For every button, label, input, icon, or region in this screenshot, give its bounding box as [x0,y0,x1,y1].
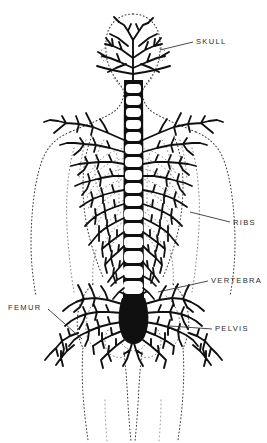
skull-bone-uptake [97,17,170,80]
leader-skull [160,42,193,50]
leader-ribs [190,212,230,222]
skeleton-illustration: .dot{fill:none;stroke:#3c3c3c;stroke-wid… [0,0,267,443]
leader-femur [48,309,82,339]
label-vertebra: VERTEBRA [211,277,262,285]
ribs-left-uptake [44,113,124,283]
label-pelvis: PELVIS [215,325,249,333]
label-skull: SKULL [196,38,227,46]
label-ribs: RIBS [233,219,256,227]
leader-pelvis [170,326,212,329]
bone-scan-figure: .dot{fill:none;stroke:#3c3c3c;stroke-wid… [0,0,267,443]
label-femur: FEMUR [8,304,42,312]
vertebral-column [123,80,144,300]
